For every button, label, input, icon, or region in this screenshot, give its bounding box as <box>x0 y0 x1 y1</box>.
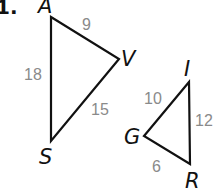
side-label-GR: 6 <box>152 158 161 175</box>
vertex-label-R: R <box>185 169 200 191</box>
triangle-AVS: A V S 9 18 15 <box>24 0 137 169</box>
side-label-AS: 18 <box>24 66 42 83</box>
side-label-IR: 12 <box>195 112 213 129</box>
side-label-AV: 9 <box>82 16 91 33</box>
vertex-label-S: S <box>39 145 52 169</box>
problem-number: 1. <box>0 0 18 19</box>
similar-triangles-diagram: 1. A V S 9 18 15 I G R 10 12 6 <box>0 0 213 191</box>
vertex-label-A: A <box>36 0 52 18</box>
triangle-IGR: I G R 10 12 6 <box>124 57 213 191</box>
triangle-AVS-shape <box>51 17 119 141</box>
vertex-label-G: G <box>124 125 140 149</box>
side-label-VS: 15 <box>91 101 109 118</box>
vertex-label-V: V <box>121 47 137 71</box>
vertex-label-I: I <box>184 57 190 81</box>
side-label-GI: 10 <box>144 90 162 107</box>
